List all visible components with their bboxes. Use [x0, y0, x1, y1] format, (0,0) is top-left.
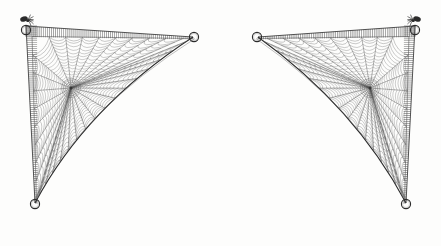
spider: [20, 15, 34, 26]
radius-thread: [71, 88, 105, 108]
radius-thread: [71, 38, 116, 88]
spiral-thread: [48, 58, 138, 155]
spider-web-illustration: [0, 0, 441, 246]
top-edge-rule: [26, 26, 193, 37]
radius-threads: [33, 37, 187, 200]
radius-thread: [71, 38, 183, 88]
illustration-plate: [0, 0, 441, 246]
spider: [408, 15, 422, 26]
spiral-thread: [38, 44, 171, 184]
left-corner-web: [20, 15, 199, 209]
top-edge-rule: [258, 26, 415, 37]
right-corner-web: [252, 15, 421, 209]
capture-spiral: [33, 37, 185, 197]
outer-edge-thread: [258, 37, 406, 203]
spiral-thread: [56, 67, 119, 132]
radius-threads: [264, 37, 408, 200]
spiral-thread: [33, 37, 185, 197]
